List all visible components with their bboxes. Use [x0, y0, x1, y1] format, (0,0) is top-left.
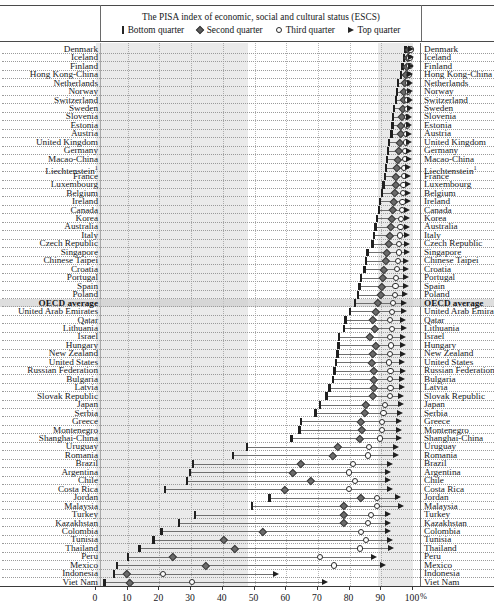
bottom-quarter-marker	[393, 105, 395, 113]
top-quarter-marker	[398, 393, 404, 399]
third-quarter-marker	[358, 529, 364, 535]
top-quarter-marker	[406, 114, 412, 120]
top-quarter-marker	[408, 54, 414, 60]
bottom-quarter-marker	[337, 342, 339, 350]
bar-marker-icon	[122, 26, 125, 34]
bottom-quarter-marker	[382, 181, 384, 189]
third-quarter-marker	[374, 495, 380, 501]
range-connector	[193, 464, 390, 465]
header-divider-left	[100, 5, 101, 41]
top-quarter-marker	[397, 410, 403, 416]
range-connector	[320, 405, 401, 406]
chart-row: LithuaniaLithuania	[0, 324, 494, 332]
third-quarter-marker	[398, 216, 404, 222]
top-quarter-marker	[393, 452, 399, 458]
third-quarter-marker	[350, 461, 356, 467]
bottom-quarter-marker	[338, 333, 340, 341]
chart-figure: The PISA index of economic, social and c…	[0, 0, 494, 614]
third-quarter-marker	[189, 579, 195, 585]
third-quarter-marker	[382, 402, 388, 408]
top-quarter-marker	[403, 274, 409, 280]
bottom-quarter-marker	[332, 376, 334, 384]
top-quarter-marker	[388, 545, 394, 551]
chart-row: PortugalPortugal	[0, 274, 494, 282]
legend-item-bottom-quarter: Bottom quarter	[122, 25, 185, 35]
third-quarter-marker	[396, 241, 402, 247]
axis-tick-label-50: 50	[249, 592, 259, 603]
top-quarter-marker	[406, 148, 412, 154]
third-quarter-marker	[387, 334, 393, 340]
legend-item-third-quarter: Third quarter	[276, 25, 335, 35]
chart-row: ThailandThailand	[0, 544, 494, 552]
chart-row: United Arab EmiratesUnited Arab Emirates	[0, 307, 494, 315]
bottom-quarter-marker	[379, 198, 381, 206]
bottom-quarter-marker	[160, 528, 162, 536]
top-quarter-marker	[400, 351, 406, 357]
third-quarter-marker	[346, 469, 352, 475]
top-quarter-marker	[395, 494, 401, 500]
bottom-quarter-marker	[251, 502, 253, 510]
bottom-quarter-marker	[374, 223, 376, 231]
bottom-quarter-marker	[391, 122, 393, 130]
range-connector	[114, 574, 276, 575]
bottom-quarter-marker	[395, 96, 397, 104]
third-quarter-marker	[160, 571, 166, 577]
bottom-quarter-marker	[392, 113, 394, 121]
header-divider-right	[421, 5, 422, 41]
top-quarter-marker	[401, 325, 407, 331]
range-connector	[179, 523, 388, 524]
bottom-quarter-marker	[376, 215, 378, 223]
bottom-quarter-marker	[387, 147, 389, 155]
third-quarter-marker	[392, 283, 398, 289]
bottom-quarter-marker	[373, 232, 375, 240]
footnote-marker: 1	[474, 164, 477, 171]
bottom-quarter-marker	[390, 130, 392, 138]
bottom-quarter-marker	[384, 173, 386, 181]
third-quarter-marker	[389, 309, 395, 315]
bottom-quarter-marker	[314, 409, 316, 417]
bottom-quarter-marker	[246, 443, 248, 451]
top-quarter-marker	[402, 291, 408, 297]
top-quarter-marker	[406, 139, 412, 145]
third-quarter-marker	[331, 562, 337, 568]
top-quarter-marker	[407, 88, 413, 94]
top-quarter-marker	[385, 477, 391, 483]
top-quarter-marker	[403, 258, 409, 264]
range-connector	[139, 548, 391, 549]
top-quarter-marker	[387, 486, 393, 492]
axis-unit-label: %	[420, 592, 427, 601]
third-quarter-marker	[346, 486, 352, 492]
bottom-quarter-marker	[357, 291, 359, 299]
third-quarter-marker	[387, 317, 393, 323]
top-quarter-marker	[400, 368, 406, 374]
axis-tick-label-90: 90	[376, 592, 386, 603]
axis-tick-label-30: 30	[185, 592, 195, 603]
bottom-quarter-marker	[336, 350, 338, 358]
third-quarter-marker	[387, 351, 393, 357]
axis-tick-90	[380, 587, 381, 590]
legend-item-top-quarter: Top quarter	[348, 25, 400, 35]
top-quarter-marker	[385, 469, 391, 475]
chart-row: CanadaCanada	[0, 206, 494, 214]
third-quarter-marker	[387, 368, 393, 374]
bottom-quarter-marker	[268, 494, 270, 502]
range-connector	[165, 489, 390, 490]
third-quarter-marker	[317, 554, 323, 560]
axis-tick-label-80: 80	[344, 592, 354, 603]
top-quarter-marker	[403, 283, 409, 289]
axis-tick-100	[412, 587, 413, 590]
bottom-quarter-marker	[385, 164, 387, 172]
bottom-quarter-marker	[381, 189, 383, 197]
axis-tick-label-100: 100	[405, 592, 419, 603]
top-quarter-marker	[371, 554, 377, 560]
bottom-quarter-marker	[325, 392, 327, 400]
third-quarter-marker	[380, 410, 386, 416]
axis-tick-50	[254, 587, 255, 590]
top-quarter-marker	[404, 207, 410, 213]
bottom-quarter-marker	[378, 206, 380, 214]
third-quarter-marker	[379, 419, 385, 425]
bottom-quarter-marker	[192, 460, 194, 468]
bottom-quarter-marker	[349, 308, 351, 316]
third-quarter-marker	[387, 393, 393, 399]
top-quarter-marker	[401, 308, 407, 314]
